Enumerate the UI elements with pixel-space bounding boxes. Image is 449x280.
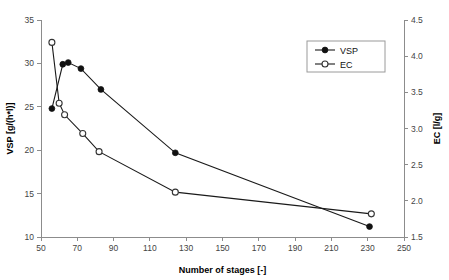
x-axis-tick-label: 90 [109,243,119,253]
data-point-vsp [172,150,178,156]
y-axis-right-tick-label: 2.0 [411,196,423,206]
y-axis-right-tick-label: 4.0 [411,51,423,61]
y-axis-right-tick-label: 3.5 [411,87,423,97]
data-point-vsp [78,66,84,72]
chart-legend: VSPEC [307,41,385,72]
x-axis-tick-label: 210 [324,243,338,253]
data-point-ec [172,189,178,195]
data-point-vsp [49,106,55,112]
data-point-ec [368,211,374,217]
y-axis-left-tick-label: 10 [25,232,35,242]
y-axis-left-tick-label: 30 [25,58,35,68]
y-axis-right-tick-label: 2.5 [411,160,423,170]
data-point-ec [80,131,86,137]
chart-container: 101520253035 1.52.02.53.03.54.04.5 50709… [0,0,449,280]
y-axis-right-ticks: 1.52.02.53.03.54.04.5 [404,15,423,242]
data-point-ec [62,112,68,118]
data-point-ec [96,149,102,155]
data-point-ec [56,100,62,106]
y-axis-left-tick-label: 25 [25,102,35,112]
legend-marker-vsp [322,47,328,53]
data-point-vsp [60,61,66,67]
y-axis-left-tick-label: 15 [25,189,35,199]
x-axis-tick-label: 110 [143,243,157,253]
legend-marker-ec [322,61,328,67]
legend-label-ec: EC [340,60,353,70]
x-axis-title: Number of stages [-] [179,265,267,275]
y-axis-left-tick-label: 35 [25,15,35,25]
x-axis-ticks: 507090110130150170190210230250 [36,237,411,253]
x-axis-tick-label: 230 [361,243,375,253]
y-axis-left-ticks: 101520253035 [25,15,41,242]
data-point-vsp [98,87,104,93]
chart-canvas: 101520253035 1.52.02.53.03.54.04.5 50709… [0,0,449,280]
x-axis-tick-label: 190 [288,243,302,253]
x-axis-tick-label: 170 [252,243,266,253]
x-axis-tick-label: 70 [73,243,83,253]
data-point-vsp [65,60,71,66]
x-axis-tick-label: 50 [36,243,46,253]
x-axis-tick-label: 250 [397,243,411,253]
legend-label-vsp: VSP [340,46,358,56]
y-axis-left-title: VSP [g/(h*l)] [5,103,15,155]
y-axis-right-tick-label: 4.5 [411,15,423,25]
x-axis-tick-label: 130 [179,243,193,253]
y-axis-right-title: EC [l/g] [432,113,442,145]
data-point-vsp [367,224,373,230]
y-axis-left-tick-label: 20 [25,145,35,155]
data-point-ec [49,39,55,45]
y-axis-right-tick-label: 3.0 [411,124,423,134]
y-axis-right-tick-label: 1.5 [411,232,423,242]
x-axis-tick-label: 150 [215,243,229,253]
